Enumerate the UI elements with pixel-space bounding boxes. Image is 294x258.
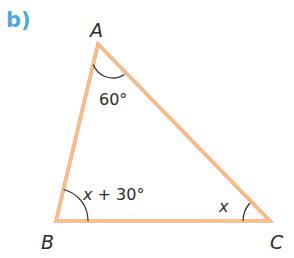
angle-label-c: x [219,199,228,215]
angle-arc-c [243,203,250,221]
vertex-label-b: B [41,233,54,252]
angle-label-b: x + 30° [83,187,144,203]
part-label: b) [6,10,31,31]
angle-label-b-constant: + 30° [92,185,144,204]
angle-label-a: 60° [99,92,127,108]
vertex-label-c: C [270,233,283,252]
triangle-diagram [0,0,294,258]
vertex-label-a: A [90,21,103,40]
